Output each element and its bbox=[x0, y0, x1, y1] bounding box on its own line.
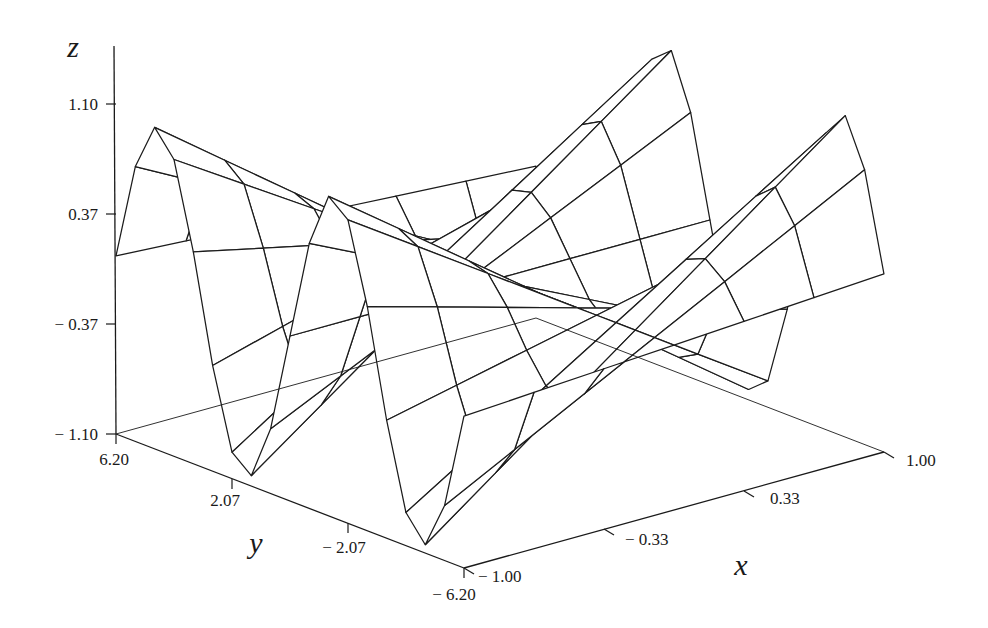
y-tick-label: 2.07 bbox=[210, 491, 240, 510]
wireframe-surface bbox=[116, 51, 884, 545]
z-tick-label: 0.37 bbox=[68, 205, 98, 224]
z-tick-label: − 0.37 bbox=[54, 315, 98, 334]
y-tick-label: 6.20 bbox=[99, 450, 129, 469]
z-axis-label: z bbox=[66, 30, 79, 63]
x-tick-label: − 1.00 bbox=[478, 567, 522, 586]
surface-plot: 1.10 0.37 − 0.37 − 1.10 6.20 2.07 − 2.07… bbox=[0, 0, 988, 628]
x-axis-line bbox=[464, 452, 884, 568]
x-tick-label: 0.33 bbox=[770, 489, 800, 508]
x-tick-label: − 0.33 bbox=[625, 530, 669, 549]
x-axis-ticks bbox=[464, 452, 894, 574]
z-tick-label: − 1.10 bbox=[54, 425, 98, 444]
y-tick-label: − 6.20 bbox=[432, 585, 476, 604]
y-tick-label: − 2.07 bbox=[322, 538, 366, 557]
y-axis-label: y bbox=[246, 526, 263, 559]
x-tick-label: 1.00 bbox=[906, 451, 936, 470]
x-axis-label: x bbox=[733, 548, 748, 581]
z-tick-label: 1.10 bbox=[68, 95, 98, 114]
